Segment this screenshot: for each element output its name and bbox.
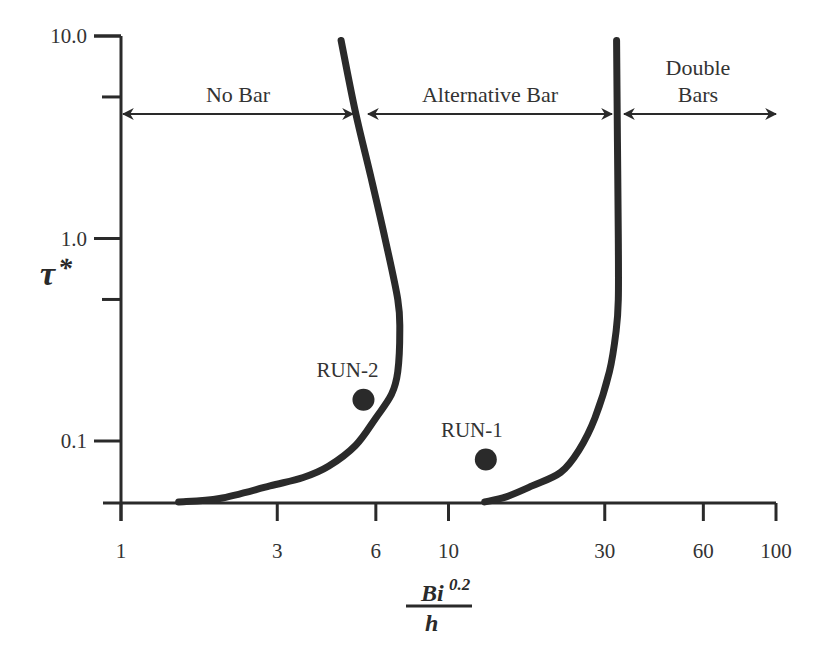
region-annotations: No BarAlternative BarDoubleBars xyxy=(123,55,776,114)
x-axis-denominator: h xyxy=(425,610,438,636)
x-axis-exponent: 0.2 xyxy=(449,575,471,594)
x-tick-label: 60 xyxy=(693,539,714,563)
y-tick-label: 1.0 xyxy=(61,227,87,251)
y-tick-label: 10.0 xyxy=(50,24,87,48)
x-tick-label: 100 xyxy=(760,539,792,563)
boundary-curves xyxy=(179,41,619,502)
x-axis-numerator: Bi xyxy=(420,580,444,606)
x-tick-label: 1 xyxy=(116,539,127,563)
region-label: Alternative Bar xyxy=(422,82,559,107)
region-label: No Bar xyxy=(206,82,271,107)
point-label: RUN-1 xyxy=(441,418,503,442)
region-label: Bars xyxy=(678,82,718,107)
phase-diagram-chart: 10.01.00.1136103060100 No BarAlternative… xyxy=(0,0,819,660)
y-axis-symbol: τ xyxy=(40,255,56,292)
y-tick-label: 0.1 xyxy=(61,429,87,453)
x-tick-label: 10 xyxy=(438,539,459,563)
x-axis-title: Bi 0.2 h xyxy=(406,575,472,636)
left-boundary-curve xyxy=(179,41,400,502)
point-label: RUN-2 xyxy=(317,358,379,382)
data-point-run-1 xyxy=(475,449,497,471)
axes xyxy=(103,36,776,521)
x-tick-label: 6 xyxy=(371,539,382,563)
x-tick-label: 3 xyxy=(272,539,283,563)
x-tick-label: 30 xyxy=(594,539,615,563)
y-axis-subscript: * xyxy=(58,252,73,283)
region-label: Double xyxy=(666,55,731,80)
y-axis-title: τ * xyxy=(40,252,73,292)
data-point-run-2 xyxy=(352,389,374,411)
right-boundary-curve xyxy=(485,41,619,502)
